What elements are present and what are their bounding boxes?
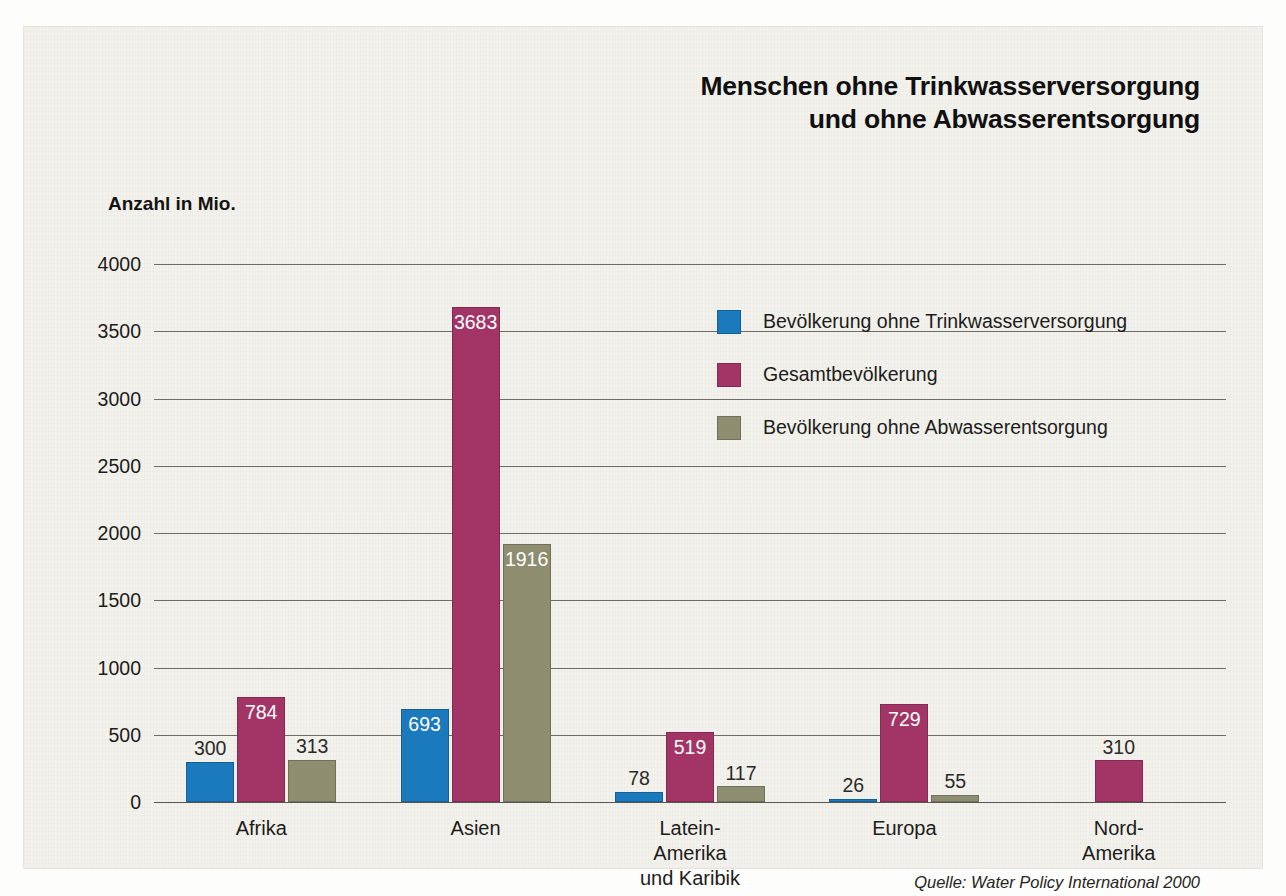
x-axis-category-label: Afrika [236,816,287,841]
chart-legend: Bevölkerung ohne TrinkwasserversorgungGe… [717,295,1127,454]
scanned-page: Die Europäische Union und ihre Mitglied-… [0,0,1286,896]
y-axis-caption: Anzahl in Mio. [108,193,236,215]
bar-value-label: 117 [725,764,756,784]
bar-value-label: 78 [628,769,650,789]
legend-color-swatch [717,363,741,387]
y-axis-tick-label: 4000 [98,253,141,276]
x-axis-category-label: Asien [451,816,501,841]
bar: 117 [717,786,765,802]
legend-item: Bevölkerung ohne Abwasserentsorgung [717,401,1127,454]
chart-panel: Menschen ohne Trinkwasserversorgung und … [24,27,1262,868]
legend-color-swatch [717,310,741,334]
bar: 784 [237,697,285,802]
y-axis-tick-label: 0 [130,791,141,814]
chart-title-line-1: Menschen ohne Trinkwasserversorgung [700,70,1200,103]
y-axis-tick-label: 3500 [98,320,141,343]
legend-item: Gesamtbevölkerung [717,348,1127,401]
bar: 300 [186,762,234,802]
bar-value-label: 26 [843,776,865,796]
x-axis-category-label: Latein-Amerika und Karibik [636,816,743,891]
bar-value-label: 693 [408,715,441,735]
bar-group: 69336831916Asien [368,264,582,802]
y-axis-tick-label: 2000 [98,522,141,545]
x-axis-category-label: Nord-Amerika [1065,816,1172,866]
chart-title: Menschen ohne Trinkwasserversorgung und … [700,70,1200,136]
bar-value-label: 310 [1103,738,1136,758]
bar: 729 [880,704,928,802]
bar-value-label: 729 [888,710,921,730]
y-axis-tick-label: 1000 [98,656,141,679]
bar-value-label: 3683 [454,313,497,333]
bar-value-label: 55 [945,772,967,792]
bar: 310 [1095,760,1143,802]
bar: 313 [288,760,336,802]
legend-item-label: Bevölkerung ohne Trinkwasserversorgung [763,310,1127,333]
bar-value-label: 1916 [505,550,548,570]
y-axis-tick-label: 3000 [98,387,141,410]
bar: 693 [401,709,449,802]
bar: 55 [931,795,979,802]
bar-value-label: 300 [194,739,227,759]
bar: 1916 [503,544,551,802]
x-axis-category-label: Europa [872,816,937,841]
source-note: Quelle: Water Policy International 2000 [914,873,1200,892]
bar-group: 300784313Afrika [154,264,368,802]
y-axis-tick-label: 500 [108,723,141,746]
legend-item-label: Bevölkerung ohne Abwasserentsorgung [763,416,1108,439]
bar: 519 [666,732,714,802]
bar: 78 [615,792,663,802]
legend-item: Bevölkerung ohne Trinkwasserversorgung [717,295,1127,348]
y-axis-tick-label: 1500 [98,589,141,612]
bar-value-label: 313 [296,737,329,757]
legend-item-label: Gesamtbevölkerung [763,363,938,386]
bar: 3683 [452,307,500,802]
axis-baseline: 0 [154,802,1226,803]
bar-value-label: 519 [674,738,707,758]
y-axis-tick-label: 2500 [98,454,141,477]
chart-title-line-2: und ohne Abwasserentsorgung [700,103,1200,136]
legend-color-swatch [717,416,741,440]
bar: 26 [829,799,877,802]
bar-value-label: 784 [245,703,278,723]
